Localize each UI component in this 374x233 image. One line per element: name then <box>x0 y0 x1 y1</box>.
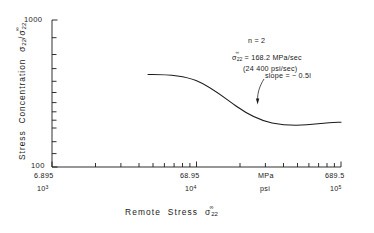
x-tick-psi-3-exp: 5 <box>339 184 342 190</box>
slope-arrowhead <box>256 98 259 104</box>
figure-container: 1000 100 Stress Concentration σ22/σ22∞ 6… <box>0 0 374 233</box>
y-axis-title-prefix: Stress Concentration <box>17 52 27 160</box>
x-tick-mpa-1: 6.895 <box>34 172 54 179</box>
x-axis-ticks <box>52 162 341 168</box>
stress-rate-symbol: σ22∞ <box>232 54 242 62</box>
plot-svg <box>0 0 374 233</box>
x-unit-mpa: MPa <box>258 172 274 179</box>
y-axis-title: Stress Concentration σ22/σ22∞ <box>17 23 27 160</box>
x-tick-mpa-2: 68.95 <box>180 172 200 179</box>
y-axis-sigma-denominator: σ22∞ <box>17 23 27 36</box>
x-tick-psi-2-exp: 4 <box>194 184 197 190</box>
annotation-n-value: n = 2 <box>248 37 265 44</box>
x-tick-psi-1-exp: 3 <box>46 184 49 190</box>
x-tick-psi-1-base: 10 <box>37 184 46 193</box>
x-axis-caption-prefix: Remote Stress <box>125 207 205 217</box>
x-axis-caption: Remote Stress σ22∞ <box>125 208 218 217</box>
data-curve <box>148 74 341 125</box>
x-tick-psi-2: 104 <box>185 185 197 192</box>
x-unit-psi: psi <box>260 185 270 192</box>
y-axis-sigma-numerator: σ22 <box>17 39 27 52</box>
annotation-stress-rate-mpa: σ22∞ = 168.2 MPa/sec <box>232 54 302 62</box>
x-tick-mpa-3: 689.5 <box>325 172 345 179</box>
x-axis-caption-symbol: σ22∞ <box>205 208 218 217</box>
slope-leader-line <box>258 79 264 100</box>
x-tick-psi-3-base: 10 <box>330 184 339 193</box>
x-tick-psi-2-base: 10 <box>185 184 194 193</box>
x-tick-psi-3: 105 <box>330 185 342 192</box>
annotation-slope: slope = − 0.5l <box>265 72 311 79</box>
stress-rate-value: = 168.2 MPa/sec <box>242 53 301 62</box>
y-axis-bottom-label: 100 <box>31 162 45 170</box>
y-axis-ticks <box>52 20 58 167</box>
x-tick-psi-1: 103 <box>37 185 49 192</box>
